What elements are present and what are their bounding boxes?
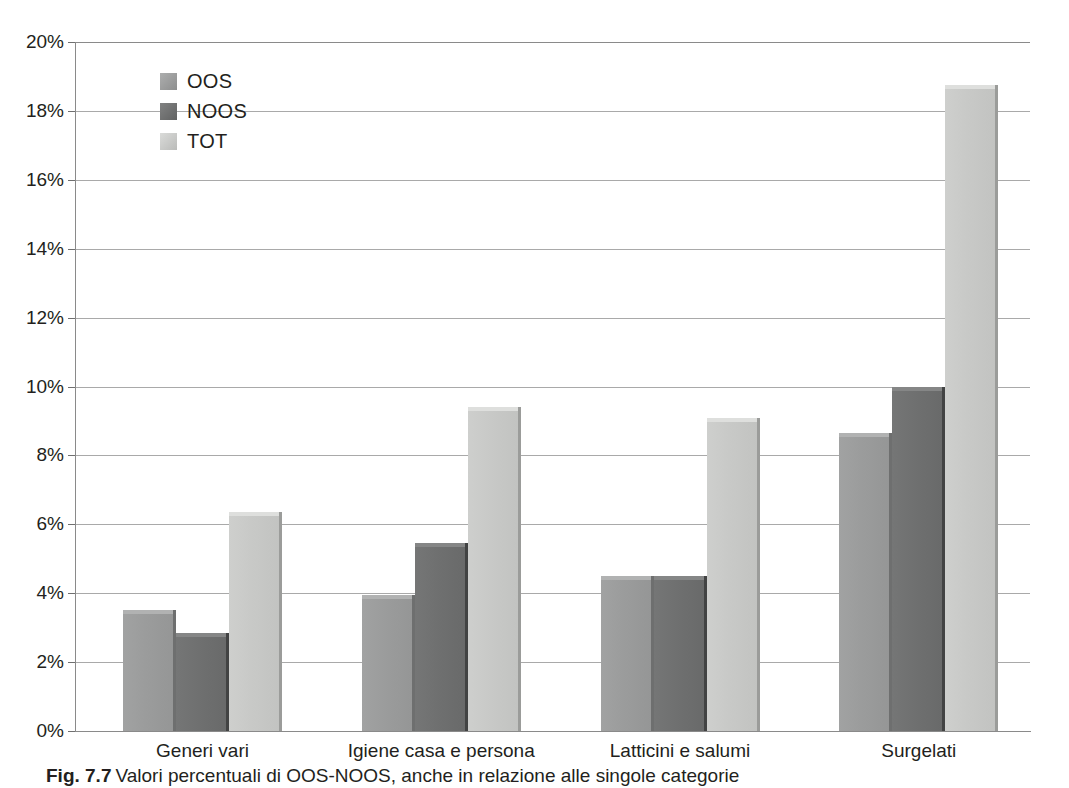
bar-right-edge	[518, 407, 521, 731]
x-axis-category-label: Latticini e salumi	[610, 740, 750, 762]
y-axis-tick-label: 20%	[0, 31, 64, 53]
bar-body	[123, 610, 173, 731]
bar-body	[468, 407, 518, 731]
legend-swatch-icon	[160, 103, 177, 120]
figure-caption-text: Valori percentuali di OOS-NOOS, anche in…	[115, 765, 739, 786]
x-axis-category-label: Igiene casa e persona	[348, 740, 535, 762]
x-axis-category-label: Surgelati	[881, 740, 956, 762]
y-axis-tick	[68, 111, 75, 112]
y-axis-tick-label: 14%	[0, 238, 64, 260]
bar-noos-2	[415, 543, 468, 731]
bar-top-highlight	[601, 576, 651, 580]
bar-noos-1	[176, 633, 229, 731]
y-axis-tick	[68, 524, 75, 525]
legend-swatch-icon	[160, 133, 177, 150]
bar-body	[229, 512, 279, 731]
y-axis-labels: 20%18%16%14%12%10%8%6%4%2%0%	[0, 0, 64, 785]
chart-legend: OOSNOOSTOT	[160, 66, 350, 156]
bar-noos-4	[892, 387, 945, 732]
bar-body	[707, 418, 757, 731]
y-axis-tick-label: 8%	[0, 444, 64, 466]
bar-oos-4	[839, 433, 892, 731]
x-axis-line	[75, 731, 1031, 732]
figure-number: Fig. 7.7	[46, 765, 111, 786]
y-axis-tick-label: 6%	[0, 513, 64, 535]
bar-oos-2	[362, 595, 415, 731]
bar-body	[945, 85, 995, 731]
y-axis-tick-label: 18%	[0, 100, 64, 122]
legend-swatch-icon	[160, 73, 177, 90]
bar-noos-3	[654, 576, 707, 731]
bar-top-highlight	[176, 633, 226, 637]
y-axis-tick-label: 4%	[0, 582, 64, 604]
legend-item-noos: NOOS	[160, 96, 350, 126]
bar-right-edge	[279, 512, 282, 731]
bar-top-highlight	[707, 418, 757, 422]
bar-tot-3	[707, 418, 760, 731]
y-axis-tick	[68, 455, 75, 456]
bar-right-edge	[995, 85, 998, 731]
bar-body	[415, 543, 465, 731]
legend-item-oos: OOS	[160, 66, 350, 96]
y-axis-tick	[68, 731, 75, 732]
y-axis-tick	[68, 180, 75, 181]
bar-top-highlight	[654, 576, 704, 580]
bar-right-edge	[757, 418, 760, 731]
legend-item-tot: TOT	[160, 126, 350, 156]
y-axis-tick-label: 2%	[0, 651, 64, 673]
y-axis-tick	[68, 318, 75, 319]
y-axis-tick	[68, 249, 75, 250]
y-axis-tick-label: 12%	[0, 307, 64, 329]
y-axis-tick-label: 10%	[0, 376, 64, 398]
bar-top-highlight	[123, 610, 173, 614]
y-axis-tick	[68, 387, 75, 388]
bar-top-highlight	[415, 543, 465, 547]
bar-top-highlight	[839, 433, 889, 437]
bar-oos-3	[601, 576, 654, 731]
figure-caption: Fig. 7.7Valori percentuali di OOS-NOOS, …	[46, 764, 1046, 788]
bar-tot-4	[945, 85, 998, 731]
bar-oos-1	[123, 610, 176, 731]
y-axis-tick-label: 16%	[0, 169, 64, 191]
bar-tot-2	[468, 407, 521, 731]
bar-top-highlight	[892, 387, 942, 391]
bar-top-highlight	[468, 407, 518, 411]
bar-body	[362, 595, 412, 731]
x-axis-category-label: Generi vari	[156, 740, 249, 762]
legend-label: NOOS	[187, 100, 247, 123]
bar-body	[839, 433, 889, 731]
y-axis-tick	[68, 662, 75, 663]
bar-top-highlight	[945, 85, 995, 89]
bar-body	[601, 576, 651, 731]
bar-top-highlight	[362, 595, 412, 599]
y-axis-tick	[68, 42, 75, 43]
bar-tot-1	[229, 512, 282, 731]
bar-top-highlight	[229, 512, 279, 516]
bar-body	[892, 387, 942, 732]
bar-body	[176, 633, 226, 731]
legend-label: TOT	[187, 130, 228, 153]
y-axis-tick-label: 0%	[0, 720, 64, 742]
y-axis-tick	[68, 593, 75, 594]
legend-label: OOS	[187, 70, 232, 93]
bar-body	[654, 576, 704, 731]
